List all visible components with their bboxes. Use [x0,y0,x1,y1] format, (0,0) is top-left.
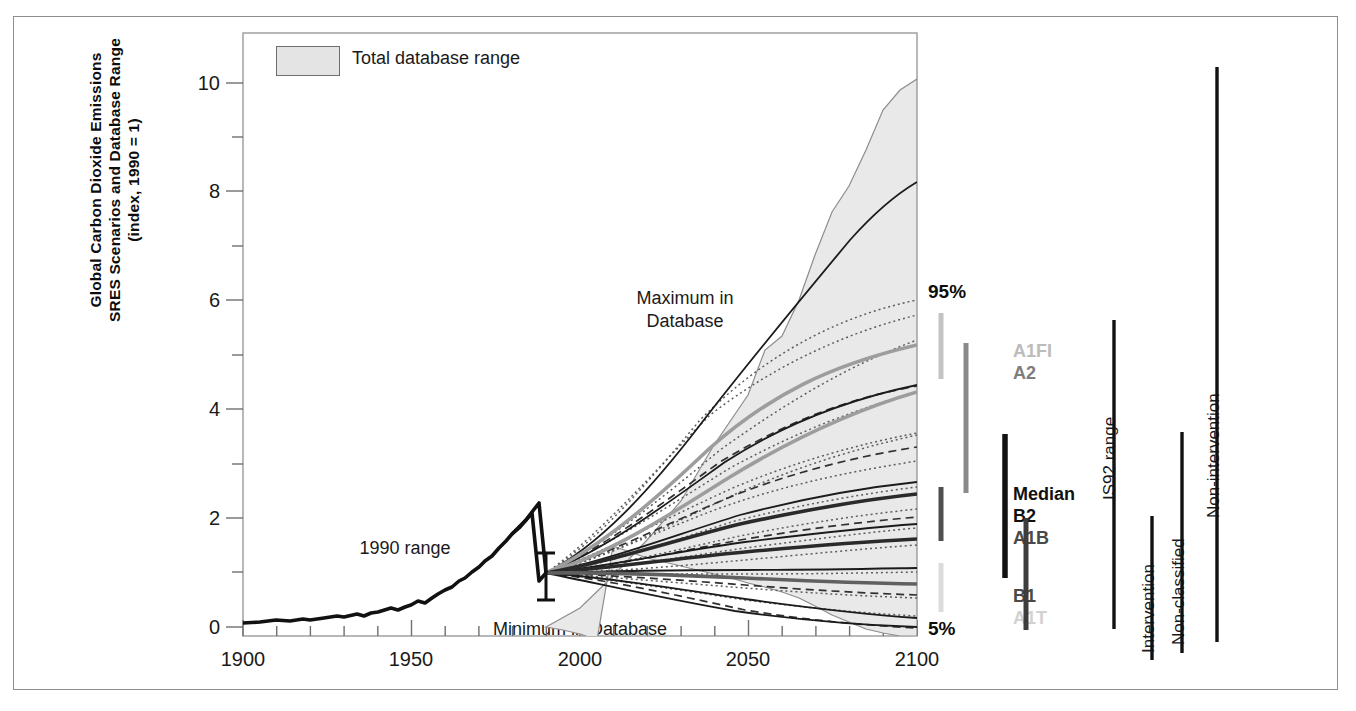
y-axis-ticks [226,83,243,627]
range-bars-right [1114,67,1217,660]
historical-emissions-line [243,503,546,623]
figure-root: Global Carbon Dioxide Emissions SRES Sce… [0,0,1356,711]
scenario-marker-bars [941,313,1026,630]
chart-canvas [0,0,1356,711]
